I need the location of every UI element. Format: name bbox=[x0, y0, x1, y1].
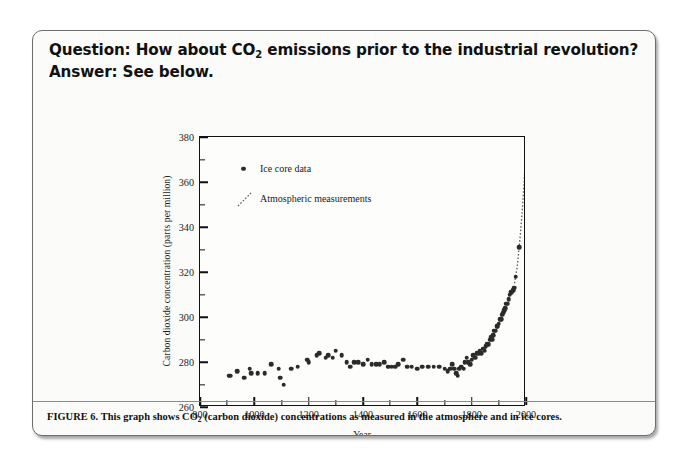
data-point bbox=[401, 357, 406, 362]
caption-prefix: FIGURE 6. This graph shows CO bbox=[47, 411, 198, 422]
chart-legend: Ice core data Atmospheric measurements bbox=[234, 159, 371, 219]
data-point bbox=[361, 362, 366, 367]
data-point bbox=[278, 375, 283, 380]
dot-marker-icon bbox=[234, 162, 260, 176]
data-point bbox=[356, 360, 361, 365]
data-point bbox=[415, 366, 420, 371]
data-point bbox=[228, 373, 233, 378]
data-point bbox=[289, 366, 294, 371]
data-point bbox=[420, 364, 425, 369]
data-point bbox=[242, 375, 247, 380]
data-point bbox=[431, 364, 436, 369]
legend-label-atmospheric: Atmospheric measurements bbox=[260, 193, 371, 204]
data-point bbox=[235, 369, 240, 374]
y-tick-label: 280 bbox=[179, 357, 194, 368]
slide-header: Question: How about CO2 emissions prior … bbox=[49, 40, 639, 83]
data-point bbox=[269, 362, 274, 367]
data-point bbox=[296, 364, 301, 369]
y-tick-label: 320 bbox=[179, 267, 194, 278]
data-point bbox=[281, 382, 286, 387]
data-point bbox=[486, 342, 491, 347]
y-tick-major bbox=[200, 406, 208, 408]
data-point bbox=[491, 333, 496, 338]
data-point bbox=[482, 348, 487, 353]
y-axis-label: Carbon dioxide concentration (parts per … bbox=[161, 175, 172, 366]
chart-plot-area: Carbon dioxide concentration (parts per … bbox=[199, 136, 525, 406]
data-point bbox=[517, 245, 522, 250]
answer-line: Answer: See below. bbox=[49, 62, 639, 83]
y-tick-label: 380 bbox=[179, 132, 194, 143]
y-tick-label: 300 bbox=[179, 312, 194, 323]
dotted-line-marker-icon bbox=[234, 192, 260, 206]
data-point bbox=[493, 328, 498, 333]
caption-suffix: (carbon dioxide) concentrations as measu… bbox=[202, 411, 562, 422]
y-tick-label: 340 bbox=[179, 222, 194, 233]
data-point bbox=[255, 371, 260, 376]
question-text-prefix: Question: How about CO bbox=[49, 41, 255, 59]
data-point bbox=[405, 364, 410, 369]
figure-caption: FIGURE 6. This graph shows CO2 (carbon d… bbox=[47, 411, 645, 422]
data-point bbox=[461, 366, 466, 371]
question-text-suffix: emissions prior to the industrial revolu… bbox=[262, 41, 638, 59]
data-point bbox=[340, 353, 345, 358]
x-axis-label: Year bbox=[353, 429, 371, 436]
data-point bbox=[249, 371, 254, 376]
data-point bbox=[396, 362, 401, 367]
data-point bbox=[306, 360, 311, 365]
data-point bbox=[410, 364, 415, 369]
data-point bbox=[426, 364, 431, 369]
question-subscript: 2 bbox=[255, 49, 262, 60]
slide-card: Question: How about CO2 emissions prior … bbox=[32, 30, 656, 436]
data-point bbox=[513, 274, 518, 279]
legend-item-atmospheric: Atmospheric measurements bbox=[234, 189, 371, 208]
data-point bbox=[512, 285, 517, 290]
data-point bbox=[499, 317, 504, 322]
data-point bbox=[468, 362, 473, 367]
question-line: Question: How about CO2 emissions prior … bbox=[49, 40, 639, 62]
data-point bbox=[437, 364, 442, 369]
data-point bbox=[497, 321, 502, 326]
data-point bbox=[330, 355, 335, 360]
data-point bbox=[317, 351, 322, 356]
data-point bbox=[262, 371, 267, 376]
data-point bbox=[490, 337, 495, 342]
y-tick-label: 360 bbox=[179, 177, 194, 188]
data-point bbox=[348, 364, 353, 369]
data-point bbox=[506, 297, 511, 302]
legend-item-ice-core: Ice core data bbox=[234, 159, 371, 178]
caption-divider bbox=[33, 401, 655, 402]
data-point bbox=[455, 373, 460, 378]
data-point bbox=[505, 301, 510, 306]
caption-subscript: 2 bbox=[198, 415, 202, 424]
figure-area: Carbon dioxide concentration (parts per … bbox=[33, 91, 656, 401]
data-point bbox=[276, 366, 281, 371]
data-point bbox=[334, 348, 339, 353]
data-point bbox=[473, 355, 478, 360]
data-point bbox=[503, 306, 508, 311]
legend-label-ice-core: Ice core data bbox=[260, 163, 311, 174]
